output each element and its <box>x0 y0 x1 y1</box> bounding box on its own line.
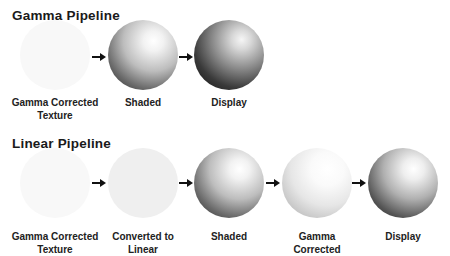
label-line: Gamma <box>267 230 367 243</box>
label-line: Texture <box>5 109 105 122</box>
converted-linear-label: Converted to Linear <box>93 230 193 256</box>
gamma-texture-label: Gamma Corrected Texture <box>5 96 105 122</box>
right-arrow-icon <box>179 52 193 62</box>
gamma-shaded-sphere <box>108 20 178 90</box>
linear-shaded-sphere <box>194 148 264 218</box>
right-arrow-icon <box>352 178 366 188</box>
label-line: Display <box>353 230 450 243</box>
label-line: Converted to <box>93 230 193 243</box>
right-arrow-icon <box>92 178 106 188</box>
label-line: Shaded <box>93 96 193 109</box>
converted-linear-circle <box>108 148 178 218</box>
label-line: Corrected <box>267 243 367 256</box>
linear-texture-circle <box>20 148 90 218</box>
label-line: Shaded <box>179 230 279 243</box>
gamma-texture-circle <box>20 20 90 90</box>
label-line: Gamma Corrected <box>5 96 105 109</box>
label-line: Gamma Corrected <box>5 230 105 243</box>
right-arrow-icon <box>266 178 280 188</box>
linear-shaded-label: Shaded <box>179 230 279 243</box>
right-arrow-icon <box>92 52 106 62</box>
linear-texture-label: Gamma Corrected Texture <box>5 230 105 256</box>
linear-display-sphere <box>368 148 438 218</box>
gamma-corrected-label: Gamma Corrected <box>267 230 367 256</box>
label-line: Linear <box>93 243 193 256</box>
gamma-display-sphere <box>194 20 264 90</box>
gamma-shaded-label: Shaded <box>93 96 193 109</box>
label-line: Display <box>179 96 279 109</box>
linear-display-label: Display <box>353 230 450 243</box>
gamma-corrected-sphere <box>282 148 352 218</box>
gamma-display-label: Display <box>179 96 279 109</box>
right-arrow-icon <box>179 178 193 188</box>
label-line: Texture <box>5 243 105 256</box>
